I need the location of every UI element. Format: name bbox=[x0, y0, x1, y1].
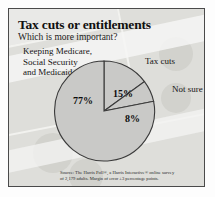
slice-label-entitlements-line1: Keeping Medicare, bbox=[23, 46, 92, 57]
source-note-line2: of 2,179 adults. Margin of error ±3 perc… bbox=[60, 176, 198, 182]
value-label-entitlements: 77% bbox=[73, 95, 93, 106]
source-note: Source: The Harris Poll®, a Harris Inter… bbox=[60, 170, 198, 181]
value-label-tax-cuts: 15% bbox=[113, 88, 133, 99]
slice-label-not-sure: Not sure bbox=[172, 84, 203, 95]
chart-card: Tax cuts or entitlements Which is more i… bbox=[8, 8, 205, 187]
page-title: Tax cuts or entitlements bbox=[18, 17, 151, 33]
value-label-not-sure: 8% bbox=[125, 113, 140, 124]
pie-chart bbox=[52, 59, 156, 163]
screenshot-root: Tax cuts or entitlements Which is more i… bbox=[0, 0, 215, 197]
page-subtitle: Which is more important? bbox=[18, 32, 117, 42]
